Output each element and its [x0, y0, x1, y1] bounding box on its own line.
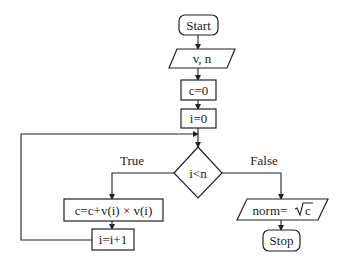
- stop-label: Stop: [270, 233, 294, 248]
- node-increment: i=i+1: [92, 229, 134, 250]
- init-i-label: i=0: [190, 111, 207, 126]
- edge-loop-back: [21, 134, 198, 240]
- flowchart-canvas: True False Start v, n c=0 i=0 i<n c=c+v(…: [0, 0, 344, 265]
- increment-label: i=i+1: [99, 232, 127, 247]
- start-label: Start: [186, 18, 211, 33]
- node-start: Start: [179, 15, 218, 35]
- node-init-c: c=0: [181, 80, 216, 100]
- init-c-label: c=0: [189, 83, 209, 98]
- output-label-radicand: c: [305, 203, 311, 218]
- input-label: v, n: [193, 51, 212, 66]
- node-accumulate: c=c+v(i) × v(i): [64, 199, 163, 221]
- accumulate-label: c=c+v(i) × v(i): [75, 203, 153, 218]
- node-condition: i<n: [174, 147, 222, 198]
- output-label-prefix: norm=: [253, 203, 288, 218]
- node-stop: Stop: [263, 230, 300, 251]
- edge-label-true: True: [120, 153, 144, 168]
- node-init-i: i=0: [181, 109, 216, 128]
- edge-label-false: False: [250, 153, 278, 168]
- edge-condition-false: [222, 173, 281, 199]
- condition-label: i<n: [189, 166, 207, 181]
- node-output: norm= c: [237, 199, 328, 220]
- node-input: v, n: [169, 49, 235, 68]
- edge-condition-true: [112, 173, 174, 199]
